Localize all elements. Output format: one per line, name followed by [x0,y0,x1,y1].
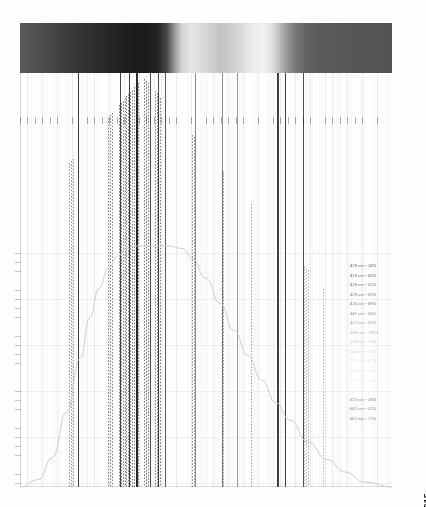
dotted-dropline [119,105,120,487]
visible-spectrum-gradient-bar [20,23,392,73]
dotted-dropline [222,170,223,487]
legend-entry: 500 nm - 100% [350,328,412,338]
legend-entry: 420 nm - 93% [350,280,412,290]
emission-line [195,73,196,487]
legend-entry: 420 nm - 34% [350,261,412,271]
dotted-dropline [158,95,159,487]
emission-line [150,73,151,487]
dotted-dropline [110,115,111,487]
dotted-dropline [155,91,156,487]
legend-entry: 662 nm - 12% [350,414,412,424]
dotted-dropline [323,289,324,487]
emission-line [237,73,238,487]
legend-entry: 520 nm - 78% [350,337,412,347]
dotted-dropline [136,85,137,487]
dotted-dropline [108,118,109,487]
dotted-dropline [132,90,133,487]
plate-background: 420 nm - 34%410 nm - 89%420 nm - 93%429 … [0,0,426,507]
dotted-dropline [146,81,147,487]
project-caption: Philippe Rahm architectes, Spectral Ligh… [422,493,426,507]
spectrum-plot: 420 nm - 34%410 nm - 89%420 nm - 93%429 … [20,73,392,487]
dotted-dropline [148,83,149,487]
legend-entry: 410 nm - 89% [350,271,412,281]
dotted-dropline [112,113,113,487]
dotted-dropline [123,101,124,487]
legend-entry: 570 nm - 61% [350,356,412,366]
dotted-dropline [71,161,72,487]
dotted-dropline [126,96,127,487]
dotted-dropline [138,83,139,487]
dotted-dropline [128,94,129,487]
emission-line [277,73,278,487]
transmission-axis-tickmarks [15,253,21,487]
dotted-dropline [251,204,252,487]
dotted-dropline [130,92,131,487]
dotted-dropline [194,137,195,487]
dotted-dropline [160,98,161,487]
legend-entry: 546 nm - 71% [350,347,412,357]
legend-entry: 635 nm - 38% [350,395,412,405]
emission-line [165,73,166,487]
dotted-dropline [306,268,307,487]
dotted-dropline [121,103,122,487]
emission-line [78,73,79,487]
dotted-dropline [223,172,224,487]
dotted-dropline [69,163,70,487]
legend-entry: 429 nm - 93% [350,290,412,300]
dotted-dropline [125,98,126,487]
dotted-dropline [144,79,145,487]
legend-entry: 642 nm - 25% [350,404,412,414]
dotted-dropline [157,93,158,487]
dotted-dropline [304,266,305,487]
legend-entry: 436 nm - 88% [350,299,412,309]
wavelength-axis-tickmarks [20,117,392,124]
emission-line [285,73,286,487]
dotted-dropline [192,135,193,487]
wavelength-percentage-legend: 420 nm - 34%410 nm - 89%420 nm - 93%429 … [350,261,412,423]
legend-entry: 589 nm - 52% [350,366,412,376]
dotted-dropline [73,159,74,487]
dotted-dropline [134,87,135,487]
legend-entry: 600 nm - 46% [350,376,412,386]
legend-entry: 453 nm - 99% [350,318,412,328]
plot-frame [20,73,392,487]
legend-entry: 445 nm - 98% [350,309,412,319]
dotted-dropline [308,270,309,487]
